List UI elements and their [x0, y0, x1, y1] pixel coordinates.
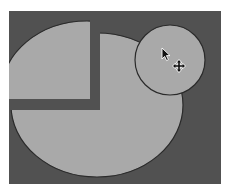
small-circle-shape[interactable]	[135, 25, 205, 95]
drawing-canvas[interactable]	[0, 0, 229, 195]
